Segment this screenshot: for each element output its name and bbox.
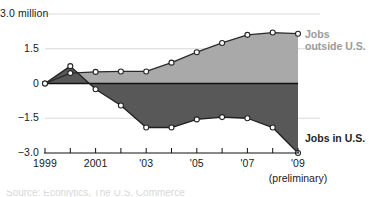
source-text-partial: Source: Econlytics, The U.S. Commerce bbox=[6, 190, 185, 197]
ytick-label-neg-1-5: −1.5 bbox=[0, 111, 39, 123]
xtick-label-09: '09 bbox=[268, 157, 328, 169]
jobs-area-chart: 3.0 million 1.5 0 −1.5 −3.0 1999 2001 '0… bbox=[0, 0, 369, 197]
cut-off-source-strip: Source: Econlytics, The U.S. Commerce bbox=[0, 190, 369, 197]
series-label-jobs-in-us: Jobs in U.S. bbox=[305, 132, 365, 145]
ytick-label-1-5: 1.5 bbox=[0, 42, 39, 54]
ytick-label-0: 0 bbox=[0, 77, 39, 89]
series-label-jobs-outside-us: Jobs outside U.S. bbox=[305, 28, 366, 53]
area-jobs-outside-us bbox=[45, 33, 298, 84]
series-label-outside-line2: outside U.S. bbox=[305, 40, 366, 53]
ytick-label-3-0: 3.0 million bbox=[0, 7, 39, 19]
series-label-outside-line1: Jobs bbox=[305, 28, 366, 41]
preliminary-note: (preliminary) bbox=[253, 172, 343, 184]
x-axis bbox=[44, 148, 299, 153]
